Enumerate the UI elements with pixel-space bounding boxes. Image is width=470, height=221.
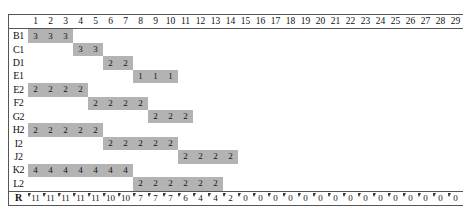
resource-value: 0 [418, 194, 433, 203]
empty-cell [448, 29, 463, 43]
empty-cell [238, 29, 253, 43]
empty-cell [28, 137, 43, 150]
empty-cell [373, 70, 388, 83]
column-header-cell: 19 [298, 15, 313, 29]
empty-cell [313, 83, 328, 96]
resource-cell: 0 [268, 191, 283, 205]
empty-cell [448, 56, 463, 69]
empty-cell [268, 56, 283, 69]
empty-cell [28, 150, 43, 163]
empty-cell [73, 137, 88, 150]
empty-cell [148, 123, 163, 136]
empty-cell [103, 110, 118, 123]
task-bar-cell: 2 [133, 137, 148, 150]
empty-cell [28, 177, 43, 191]
empty-cell [193, 137, 208, 150]
empty-cell [448, 43, 463, 56]
column-header-cell: 12 [193, 15, 208, 29]
empty-cell [433, 137, 448, 150]
empty-cell [328, 177, 343, 191]
column-header-cell: 10 [163, 15, 178, 29]
task-bar-cell: 2 [118, 56, 133, 69]
column-header-cell: 22 [343, 15, 358, 29]
empty-cell [298, 150, 313, 163]
empty-cell [238, 70, 253, 83]
empty-cell [268, 83, 283, 96]
empty-cell [283, 43, 298, 56]
empty-cell [268, 177, 283, 191]
empty-cell [268, 97, 283, 110]
task-bar-cell: 2 [43, 83, 58, 96]
empty-cell [283, 137, 298, 150]
empty-cell [403, 97, 418, 110]
task-bar-cell: 2 [178, 110, 193, 123]
empty-cell [298, 97, 313, 110]
empty-cell [103, 83, 118, 96]
resource-cell: 7 [133, 191, 148, 205]
empty-cell [418, 110, 433, 123]
task-bar-cell: 4 [58, 164, 73, 177]
empty-cell [58, 70, 73, 83]
column-header-cell: 11 [178, 15, 193, 29]
task-bar-cell: 2 [73, 83, 88, 96]
empty-cell [298, 43, 313, 56]
empty-cell [298, 110, 313, 123]
task-bar-cell: 2 [193, 177, 208, 191]
empty-cell [223, 56, 238, 69]
resource-value: 11 [28, 194, 43, 203]
resource-cell: 11 [88, 191, 103, 205]
empty-cell [58, 177, 73, 191]
task-bar-cell: 2 [148, 110, 163, 123]
resource-cell: 11 [43, 191, 58, 205]
task-bar-cell: 2 [133, 97, 148, 110]
empty-cell [448, 123, 463, 136]
empty-cell [388, 70, 403, 83]
empty-cell [103, 70, 118, 83]
empty-cell [88, 150, 103, 163]
resource-value: 6 [178, 194, 193, 203]
empty-cell [433, 164, 448, 177]
column-header-cell: 26 [403, 15, 418, 29]
resource-cell: 2 [223, 191, 238, 205]
empty-cell [178, 97, 193, 110]
empty-cell [313, 29, 328, 43]
resource-value: 7 [163, 194, 178, 203]
empty-cell [388, 177, 403, 191]
task-bar-cell: 2 [88, 123, 103, 136]
empty-cell [268, 110, 283, 123]
resource-value: 0 [328, 194, 343, 203]
empty-cell [373, 29, 388, 43]
resource-value: 0 [298, 194, 313, 203]
empty-cell [388, 110, 403, 123]
empty-cell [388, 137, 403, 150]
column-header-cell: 24 [373, 15, 388, 29]
empty-cell [298, 56, 313, 69]
empty-cell [163, 97, 178, 110]
task-bar-cell: 4 [118, 164, 133, 177]
empty-cell [28, 110, 43, 123]
empty-cell [403, 150, 418, 163]
table-row: L2222222 [9, 177, 463, 191]
empty-cell [283, 70, 298, 83]
empty-cell [418, 43, 433, 56]
empty-cell [418, 177, 433, 191]
column-header-cell: 6 [103, 15, 118, 29]
task-bar-cell: 2 [58, 83, 73, 96]
empty-cell [343, 123, 358, 136]
empty-cell [193, 123, 208, 136]
empty-cell [133, 29, 148, 43]
empty-cell [238, 164, 253, 177]
column-header-cell: 28 [433, 15, 448, 29]
task-bar-cell: 2 [43, 123, 58, 136]
resource-cell: 4 [208, 191, 223, 205]
empty-cell [268, 70, 283, 83]
table-row: F22222 [9, 97, 463, 110]
empty-cell [163, 56, 178, 69]
empty-cell [433, 43, 448, 56]
column-header-cell: 18 [283, 15, 298, 29]
empty-cell [73, 97, 88, 110]
resource-cell: 7 [148, 191, 163, 205]
empty-cell [403, 83, 418, 96]
row-label-k2: K2 [9, 164, 28, 177]
column-header-cell: 29 [448, 15, 463, 29]
